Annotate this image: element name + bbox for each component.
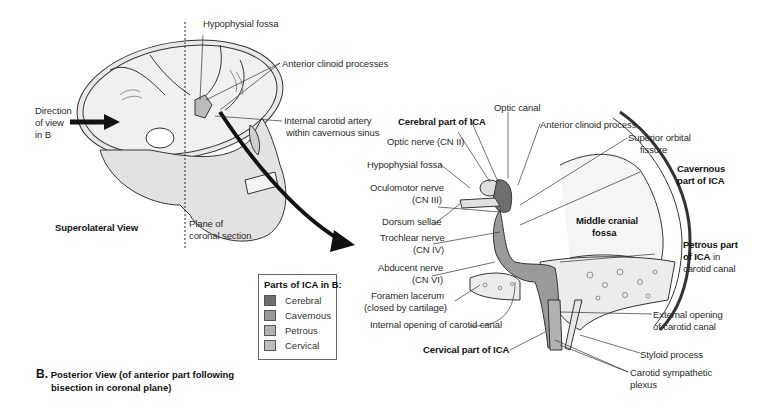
label-internal-opening: Internal opening of carotid canal: [370, 319, 502, 330]
label-superior-orbital-fissure-2: fissure: [640, 144, 667, 155]
label-hypophysial-fossa-a: Hypophysial fossa: [203, 18, 278, 29]
legend-label-cervical: Cervical: [285, 340, 319, 351]
label-anterior-clinoid-process: Anterior clinoid process: [540, 119, 636, 130]
label-direction-of-view-3: in B: [35, 129, 51, 140]
label-direction-of-view-2: of view: [35, 117, 64, 128]
skull-superolateral: [68, 25, 293, 241]
legend-item-cerebral: Cerebral: [264, 293, 331, 308]
label-optic-canal: Optic canal: [494, 102, 540, 113]
caption-letter: B.: [36, 367, 48, 381]
label-external-opening-1: External opening: [653, 309, 723, 320]
legend-label-cavernous: Cavernous: [285, 310, 331, 321]
legend-label-petrous: Petrous: [285, 325, 318, 336]
label-hypophysial-fossa-b: Hypophysial fossa: [367, 159, 442, 170]
caption-line-1: B. Posterior View (of anterior part foll…: [36, 368, 234, 381]
label-middle-cranial-fossa-2: fossa: [592, 227, 616, 238]
label-abducent-nerve-2: (CN VI): [412, 274, 443, 285]
legend-box: Parts of ICA in B: Cerebral Cavernous Pe…: [258, 274, 337, 360]
label-external-opening-2: of carotid canal: [653, 321, 716, 332]
label-oculomotor-nerve-1: Oculomotor nerve: [370, 182, 444, 193]
label-abducent-nerve-1: Abducent nerve: [378, 262, 443, 273]
caption-text-1: Posterior View (of anterior part followi…: [51, 369, 235, 380]
label-direction-of-view-1: Direction: [35, 105, 72, 116]
label-oculomotor-nerve-2: (CN III): [412, 194, 442, 205]
label-carotid-plexus-2: plexus: [630, 379, 657, 390]
label-superior-orbital-fissure-1: Superior orbital: [628, 132, 691, 143]
label-cavernous-part-ica-1: Cavernous: [677, 163, 725, 174]
label-petrous-part-ica-1: Petrous part: [683, 239, 738, 250]
label-carotid-plexus-1: Carotid sympathetic: [630, 367, 712, 378]
label-styloid-process: Styloid process: [640, 349, 703, 360]
swatch-petrous: [264, 325, 276, 336]
label-cavernous-part-ica-2: part of ICA: [677, 175, 724, 186]
label-petrous-part-ica-3: carotid canal: [683, 263, 736, 274]
label-dorsum-sellae: Dorsum sellae: [382, 216, 441, 227]
label-middle-cranial-fossa-1: Middle cranial: [576, 215, 638, 226]
curved-arrow-icon: [330, 230, 355, 252]
label-ica-cavernous-2: within cavernous sinus: [286, 127, 379, 138]
caption-line-2: bisection in coronal plane): [36, 381, 234, 394]
legend-item-petrous: Petrous: [264, 323, 331, 338]
label-foramen-lacerum-1: Foramen lacerum: [371, 290, 444, 301]
label-plane-of-section-1: Plane of: [189, 218, 223, 229]
label-trochlear-nerve-2: (CN IV): [413, 244, 444, 255]
label-petrous-part-ica-2: of ICA in: [683, 251, 720, 262]
label-foramen-lacerum-2: (closed by cartilage): [364, 302, 447, 313]
legend-label-cerebral: Cerebral: [285, 295, 321, 306]
label-cervical-part-ica: Cervical part of ICA: [423, 344, 509, 355]
label-anterior-clinoid-processes: Anterior clinoid processes: [282, 58, 388, 69]
label-plane-of-section-2: coronal section: [189, 230, 251, 241]
legend-item-cavernous: Cavernous: [264, 308, 331, 323]
swatch-cavernous: [264, 310, 276, 321]
legend-item-cervical: Cervical: [264, 338, 331, 353]
swatch-cerebral: [264, 295, 276, 306]
petrous-of-ica: of ICA: [683, 251, 710, 262]
label-optic-nerve: Optic nerve (CN II): [387, 136, 464, 147]
swatch-cervical: [264, 340, 276, 351]
figure-caption: B. Posterior View (of anterior part foll…: [36, 368, 234, 394]
label-ica-cavernous-1: Internal carotid artery: [284, 115, 371, 126]
label-superolateral-view: Superolateral View: [55, 222, 138, 233]
label-trochlear-nerve-1: Trochlear nerve: [380, 232, 445, 243]
label-cerebral-part-ica: Cerebral part of ICA: [398, 116, 486, 127]
petrous-in: in: [713, 251, 720, 262]
legend-title: Parts of ICA in B:: [264, 279, 331, 290]
